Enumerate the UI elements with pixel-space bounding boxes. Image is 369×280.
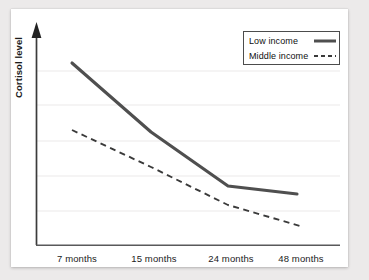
legend-item-label: Low income [249, 36, 298, 46]
x-axis-tick-label: 15 months [131, 253, 176, 264]
x-axis-tick-label: 24 months [208, 253, 253, 264]
legend-item-label: Middle income [249, 51, 308, 61]
gridlines [36, 71, 340, 211]
y-axis-title: Cortisol level [13, 8, 24, 98]
x-axis-tick-label: 7 months [57, 253, 97, 264]
x-axis-tick-label: 48 months [278, 253, 323, 264]
legend-solid-line-icon [313, 36, 337, 46]
legend-dashed-line-icon [313, 51, 337, 61]
y-axis-arrow-icon [32, 22, 42, 38]
series-low-income-line [72, 63, 297, 194]
legend-item-middle-income: Middle income [249, 48, 337, 64]
chart-legend: Low income Middle income [243, 31, 340, 65]
legend-item-low-income: Low income [249, 33, 337, 49]
